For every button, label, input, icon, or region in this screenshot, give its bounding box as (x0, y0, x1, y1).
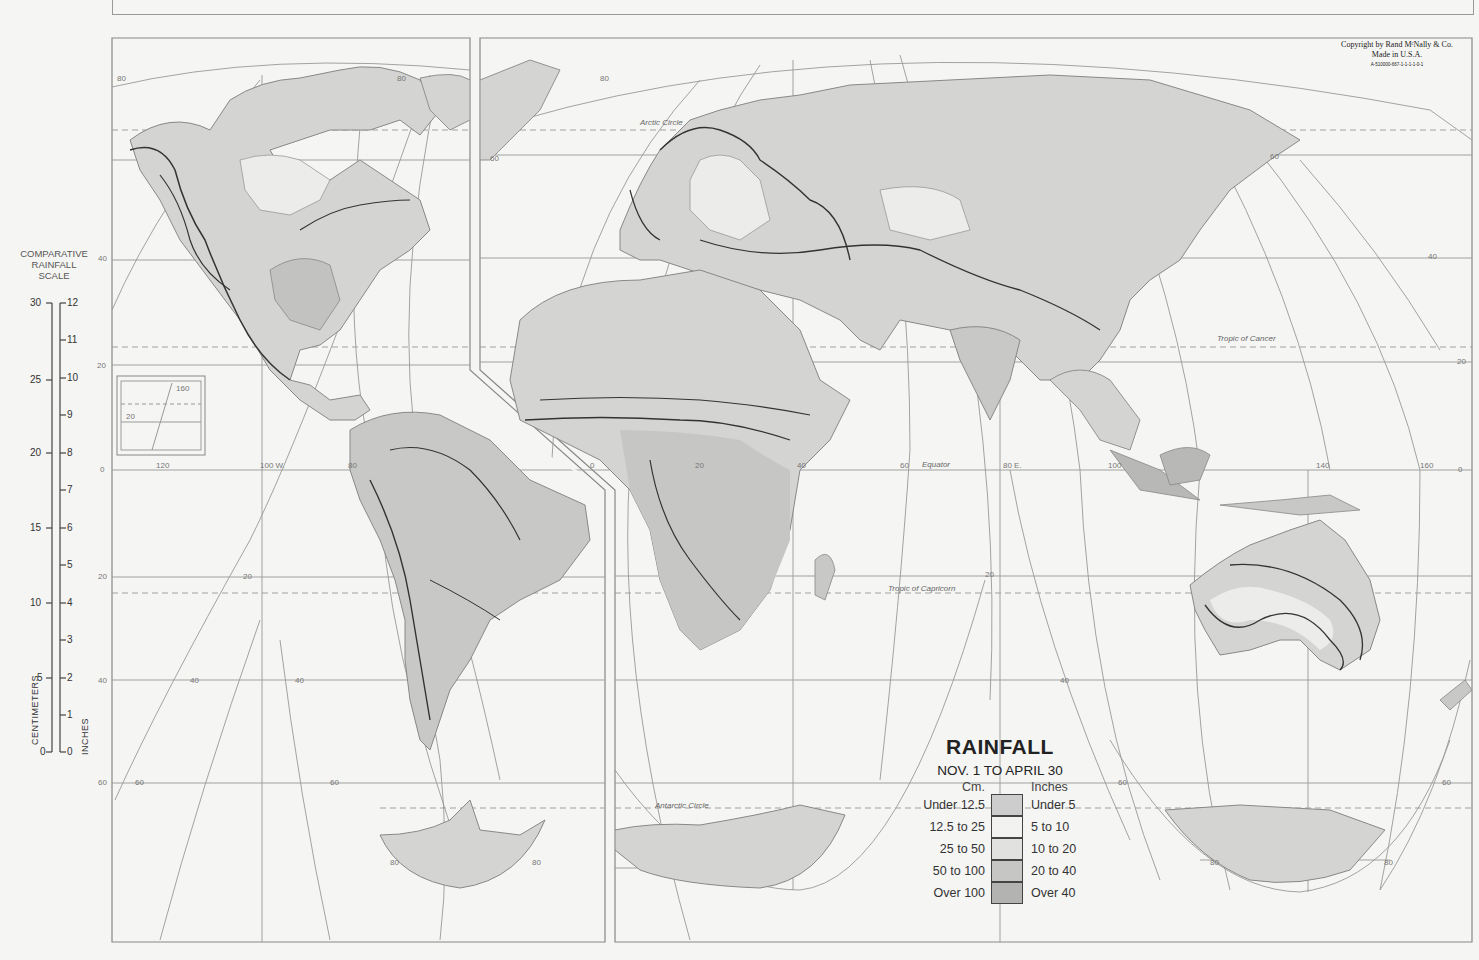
rainfall-scale (46, 303, 66, 752)
lat-label: 60 (135, 778, 144, 787)
lon-label: 100 W. (260, 461, 285, 470)
inset-lat-label: 20 (126, 412, 135, 421)
legend-row: 25 to 50 10 to 20 (905, 838, 1095, 860)
lat-label: 40 (295, 676, 304, 685)
lat-label: 60 (1442, 778, 1451, 787)
in-tick: 12 (67, 297, 78, 308)
lat-label: 60 (1118, 778, 1127, 787)
cm-tick: 20 (30, 447, 41, 458)
legend-row: 50 to 100 20 to 40 (905, 860, 1095, 882)
lat-label: 80 (600, 74, 609, 83)
cm-tick: 0 (40, 746, 46, 757)
antarctic-circle-label: Antarctic Circle (655, 801, 709, 810)
cm-tick: 25 (30, 374, 41, 385)
cm-tick: 30 (30, 297, 41, 308)
lat-label: 0 (100, 465, 104, 474)
lat-label: 40 (98, 254, 107, 263)
india (950, 327, 1020, 420)
south-america (350, 412, 590, 750)
lat-label: 20 (97, 361, 106, 370)
lat-label: 80 (117, 74, 126, 83)
lat-label: 60 (1270, 152, 1279, 161)
lon-label: 80 (348, 461, 357, 470)
antarctica-east (615, 805, 845, 888)
legend-inches-header: Inches (1023, 780, 1068, 794)
lat-label: 40 (190, 676, 199, 685)
legend-swatch (991, 882, 1023, 904)
lat-label: 20 (985, 570, 994, 579)
scale-title: COMPARATIVE RAINFALL SCALE (8, 248, 100, 281)
north-america (130, 67, 440, 420)
legend-swatch (991, 860, 1023, 882)
lat-label: 0 (1458, 465, 1462, 474)
antarctica-west (380, 800, 545, 888)
in-tick: 4 (67, 597, 73, 608)
tropic-capricorn-label: Tropic of Capricorn (888, 584, 955, 593)
lat-label: 60 (490, 154, 499, 163)
cm-tick: 15 (30, 522, 41, 533)
in-tick: 11 (67, 334, 77, 345)
in-tick: 1 (67, 709, 73, 720)
lon-label: 140 (1316, 461, 1329, 470)
in-axis-label: INCHES (80, 718, 90, 755)
legend-row: 12.5 to 25 5 to 10 (905, 816, 1095, 838)
inset-lon-label: 160 (176, 384, 189, 393)
in-tick: 9 (67, 409, 73, 420)
lat-label: 80 (1384, 858, 1393, 867)
legend: RAINFALL NOV. 1 TO APRIL 30 Cm. Inches U… (905, 735, 1095, 904)
lon-label: 20 (695, 461, 704, 470)
arctic-circle-label: Arctic Circle (640, 118, 683, 127)
lat-label: 40 (98, 676, 107, 685)
legend-swatch (991, 794, 1023, 816)
lon-label: 60 (900, 461, 909, 470)
lon-label: 120 (156, 461, 169, 470)
copyright-notice: Copyright by Rand MᶜNally & Co. Made in … (1322, 40, 1472, 70)
lat-label: 60 (330, 778, 339, 787)
legend-row: Over 100 Over 40 (905, 882, 1095, 904)
in-tick: 8 (67, 447, 73, 458)
map-title: RAINFALL (905, 735, 1095, 759)
lat-label: 80 (532, 858, 541, 867)
lon-label: 40 (797, 461, 806, 470)
in-tick: 7 (67, 484, 73, 495)
lon-label: 0 (590, 461, 594, 470)
in-tick: 10 (67, 372, 78, 383)
legend-cm-header: Cm. (905, 780, 991, 794)
world-map (0, 0, 1479, 960)
lat-label: 80 (390, 858, 399, 867)
lat-label: 20 (1457, 357, 1466, 366)
cm-tick: 10 (30, 597, 41, 608)
map-subtitle: NOV. 1 TO APRIL 30 (905, 763, 1095, 778)
lat-label: 40 (1060, 676, 1069, 685)
lat-label: 20 (243, 572, 252, 581)
western-lobe (112, 52, 605, 942)
legend-swatch (991, 838, 1023, 860)
lat-label: 60 (98, 778, 107, 787)
lat-label: 20 (98, 572, 107, 581)
legend-row: Under 12.5 Under 5 (905, 794, 1095, 816)
lon-label: 160 (1420, 461, 1433, 470)
lat-label: 80 (1210, 858, 1219, 867)
cm-axis-label: CENTIMETERS (30, 675, 40, 745)
in-tick: 3 (67, 634, 73, 645)
in-tick: 6 (67, 522, 73, 533)
tropic-cancer-label: Tropic of Cancer (1217, 334, 1276, 343)
lon-label: 100 (1108, 461, 1121, 470)
legend-swatch (991, 816, 1023, 838)
lat-label: 40 (1428, 252, 1437, 261)
equator-label: Equator (922, 460, 950, 469)
in-tick: 5 (67, 559, 73, 570)
in-tick: 0 (67, 746, 73, 757)
lat-label: 80 (397, 74, 406, 83)
in-tick: 2 (67, 672, 73, 683)
antarctica-far-east (1165, 805, 1385, 882)
lon-label: 80 E. (1003, 461, 1022, 470)
